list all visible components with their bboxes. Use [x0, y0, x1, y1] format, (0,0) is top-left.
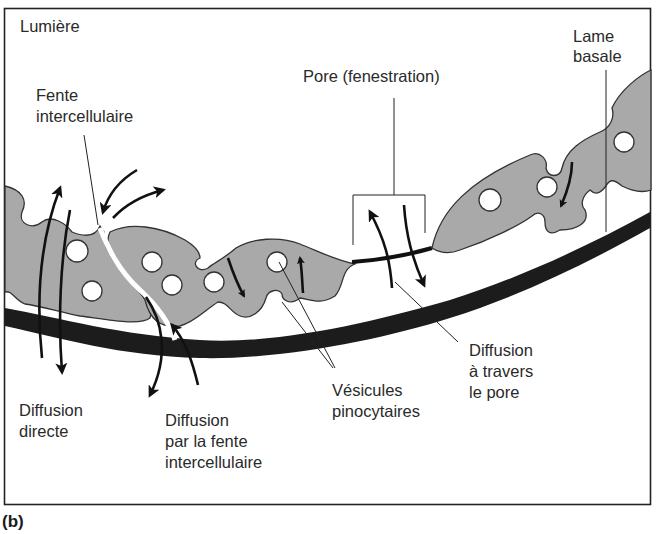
- capillary-diagram: Lumière Fente intercellulaire Pore (fene…: [0, 0, 656, 534]
- label-cleft-diff-2: par la fente: [165, 432, 248, 450]
- label-pore-diff-1: Diffusion: [469, 341, 533, 359]
- label-pore-diff-2: à travers: [469, 362, 533, 380]
- label-cleft-2: intercellulaire: [36, 107, 133, 125]
- label-cleft-1: Fente: [36, 86, 78, 104]
- label-vesicles-1: Vésicules: [332, 381, 403, 399]
- label-lumen: Lumière: [20, 17, 80, 35]
- label-pore-diff-3: le pore: [469, 383, 519, 401]
- label-cleft-diff-1: Diffusion: [165, 411, 229, 429]
- label-cleft-diff-3: intercellulaire: [165, 453, 262, 471]
- label-pore: Pore (fenestration): [303, 67, 440, 85]
- label-direct-2: directe: [19, 422, 69, 440]
- label-basal-1: Lame: [573, 27, 614, 45]
- label-direct-1: Diffusion: [19, 401, 83, 419]
- label-basal-2: basale: [573, 47, 622, 65]
- label-vesicles-2: pinocytaires: [332, 402, 420, 420]
- panel-label: (b): [2, 512, 24, 531]
